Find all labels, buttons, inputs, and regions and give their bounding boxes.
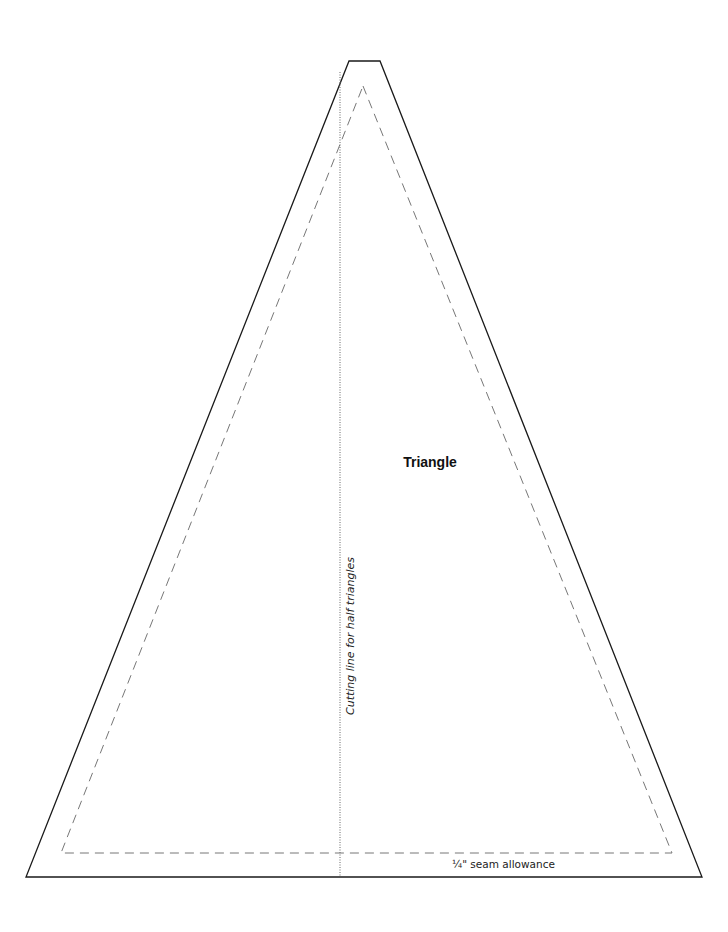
outer-cut-outline (26, 61, 702, 877)
seam-allowance-label: ¼" seam allowance (452, 858, 555, 870)
cutting-line-label: Cutting line for half triangles (344, 557, 357, 715)
seam-allowance-dashed-line (61, 86, 672, 853)
triangle-pattern-diagram (0, 0, 728, 932)
shape-title: Triangle (380, 454, 480, 470)
